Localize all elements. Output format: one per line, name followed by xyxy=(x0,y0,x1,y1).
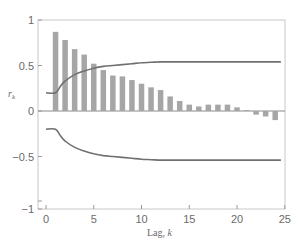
acf-bar xyxy=(244,110,250,111)
acf-bar xyxy=(129,80,135,111)
acf-bar xyxy=(234,107,240,111)
y-tick-label: 0 xyxy=(28,105,34,117)
x-tick-label: 20 xyxy=(231,213,243,225)
acf-bar xyxy=(72,49,78,111)
x-tick-label: 0 xyxy=(43,213,49,225)
x-tick-label: 5 xyxy=(91,213,97,225)
plot-border xyxy=(38,20,285,209)
acf-bar xyxy=(167,96,173,111)
acf-bar xyxy=(62,40,68,111)
x-tick-label: 15 xyxy=(183,213,195,225)
acf-bar xyxy=(81,55,87,111)
acf-bar xyxy=(139,84,145,111)
acf-bar xyxy=(253,111,259,115)
acf-bar xyxy=(120,76,126,111)
acf-bar xyxy=(196,106,202,111)
acf-bar xyxy=(110,76,116,111)
acf-bar xyxy=(148,87,154,111)
acf-bar xyxy=(91,64,97,111)
x-axis-ticks: 0510152025 xyxy=(43,205,291,225)
acf-bar xyxy=(215,105,221,111)
acf-bar xyxy=(225,105,231,111)
acf-bar xyxy=(272,111,278,120)
x-axis-label: Lag, k xyxy=(147,227,173,238)
acf-bar xyxy=(263,111,269,116)
y-axis-label: rk xyxy=(8,88,16,101)
y-tick-label: 0.5 xyxy=(19,60,34,72)
upper-limit-curve xyxy=(46,62,281,93)
y-tick-label: −0.5 xyxy=(12,151,34,163)
acf-bar xyxy=(53,32,59,111)
acf-bar xyxy=(206,105,212,111)
autocorrelation-bars xyxy=(53,32,278,120)
plot-frame xyxy=(38,20,285,209)
acf-bar xyxy=(187,105,193,111)
acf-bar xyxy=(158,90,164,111)
acf-chart: −1−0.500.51 0510152025 rk Lag, k xyxy=(0,0,302,246)
acf-bar xyxy=(101,70,107,111)
y-tick-label: −1 xyxy=(21,203,34,215)
y-tick-label: 1 xyxy=(28,14,34,26)
x-tick-label: 10 xyxy=(135,213,147,225)
lower-limit-curve xyxy=(46,129,281,160)
x-tick-label: 25 xyxy=(279,213,291,225)
acf-bar xyxy=(177,101,183,111)
